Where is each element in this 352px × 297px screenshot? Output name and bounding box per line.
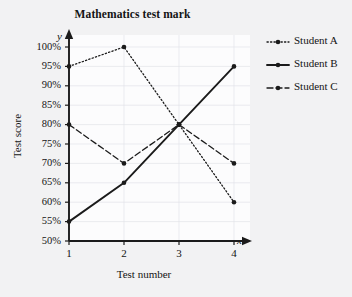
data-point xyxy=(67,122,72,127)
legend-item-student-b[interactable]: Student B xyxy=(266,51,352,74)
data-point xyxy=(232,161,237,166)
legend-label: Student B xyxy=(294,57,338,69)
y-tick-label: 60% xyxy=(19,197,61,207)
y-tick-label: 55% xyxy=(19,216,61,226)
y-tick-label: 100% xyxy=(19,42,61,52)
y-tick-label: 70% xyxy=(19,158,61,168)
y-tick-label: 95% xyxy=(19,61,61,71)
x-tick-label: 3 xyxy=(169,247,189,259)
y-tick-label: 50% xyxy=(19,236,61,246)
legend-swatch-icon xyxy=(266,34,290,46)
legend-item-student-c[interactable]: Student C xyxy=(266,74,352,97)
legend-label: Student A xyxy=(294,34,338,46)
legend-swatch-icon xyxy=(266,80,290,92)
y-tick-label: 80% xyxy=(19,119,61,129)
legend-item-student-a[interactable]: Student A xyxy=(266,28,352,51)
data-point xyxy=(67,219,72,224)
y-tick-label: 85% xyxy=(19,100,61,110)
legend-label: Student C xyxy=(294,80,338,92)
data-point xyxy=(67,64,72,69)
data-point xyxy=(122,161,127,166)
data-point xyxy=(232,200,237,205)
x-tick-label: 2 xyxy=(114,247,134,259)
y-tick-label: 65% xyxy=(19,177,61,187)
legend-swatch-icon xyxy=(266,57,290,69)
x-tick-label: 4 xyxy=(224,247,244,259)
chart-legend: Student AStudent BStudent C xyxy=(266,28,352,97)
data-point xyxy=(122,181,127,186)
data-point xyxy=(232,64,237,69)
chart-figure: Mathematics test mark Test score Test nu… xyxy=(0,0,352,297)
y-tick-label: 90% xyxy=(19,80,61,90)
y-tick-label: 75% xyxy=(19,139,61,149)
data-point xyxy=(122,45,127,50)
x-tick-label: 1 xyxy=(59,247,79,259)
data-point xyxy=(177,122,182,127)
